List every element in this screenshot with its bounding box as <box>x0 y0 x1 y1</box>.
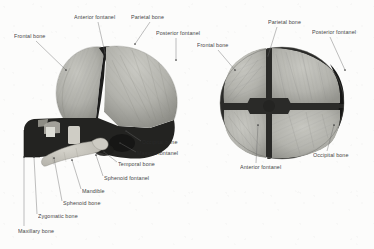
leader-dot-mastoid-fontanel <box>119 142 121 144</box>
leader-dot-anterior-fontanel-sup <box>257 124 259 126</box>
label-anterior-fontanel-sup: Anterior fontanel <box>240 164 281 170</box>
label-occipital-bone-sup: Occipital bone <box>313 152 349 158</box>
label-posterior-fontanel-sup: Posterior fontanel <box>312 29 356 35</box>
label-parietal-bone: Parietal bone <box>131 14 164 20</box>
label-parietal-bone-sup: Parietal bone <box>268 19 301 25</box>
leader-line-mandible <box>72 160 81 189</box>
leader-dot-anterior-fontanel <box>104 52 106 54</box>
leader-line-sphenoid-bone <box>54 158 62 201</box>
label-maxillary-bone: Maxillary bone <box>18 228 54 234</box>
superior-view-skull <box>218 42 346 164</box>
label-occipital-bone: Occipital bone <box>142 139 178 145</box>
leader-dot-frontal-bone-sup <box>234 69 236 71</box>
leader-dot-parietal-bone <box>134 43 136 45</box>
label-frontal-bone-sup: Frontal bone <box>197 42 228 48</box>
label-anterior-fontanel: Anterior fontanel <box>74 14 115 20</box>
label-frontal-bone: Frontal bone <box>14 33 45 39</box>
orbit-highlight <box>68 126 80 144</box>
anatomy-figure: Frontal boneAnterior fontanelParietal bo… <box>0 0 374 249</box>
leader-dot-frontal-bone <box>65 69 67 71</box>
label-mastoid-fontanel: Mastoid fontanel <box>137 150 178 156</box>
leader-dot-occipital-bone <box>125 130 127 132</box>
label-temporal-bone: Temporal bone <box>118 161 155 167</box>
lateral-view-skull <box>24 38 188 166</box>
leader-line-posterior-fontanel-sup <box>330 37 345 70</box>
leader-dot-sphenoid-bone <box>53 157 55 159</box>
leader-line-sphenoid-fontanel <box>96 155 103 176</box>
nasal-plate <box>38 119 48 127</box>
label-sphenoid-bone: Sphenoid bone <box>63 200 101 206</box>
leader-dot-mandible <box>71 159 73 161</box>
skull-illustration <box>0 0 374 249</box>
label-zygomatic-bone: Zygomatic bone <box>38 213 78 219</box>
leader-dot-sphenoid-fontanel <box>95 154 97 156</box>
label-mandible: Mandible <box>82 188 105 194</box>
leader-dot-zygomatic-bone <box>33 156 35 158</box>
leader-line-zygomatic-bone <box>34 157 37 214</box>
leader-line-frontal-bone-sup <box>218 50 235 70</box>
leader-dot-temporal-bone <box>103 151 105 153</box>
leader-line-parietal-bone <box>135 22 150 44</box>
fontanel-center <box>263 100 275 112</box>
leader-dot-occipital-bone-sup <box>333 124 335 126</box>
leader-line-frontal-bone <box>36 41 66 70</box>
label-sphenoid-fontanel: Sphenoid fontanel <box>104 175 149 181</box>
leader-dot-posterior-fontanel-sup <box>344 69 346 71</box>
maxillary-plate <box>46 127 55 137</box>
leader-dot-maxillary-bone <box>23 156 25 158</box>
leader-dot-parietal-bone-sup <box>267 55 269 57</box>
leader-dot-posterior-fontanel <box>175 59 177 61</box>
label-posterior-fontanel: Posterior fontanel <box>156 30 200 36</box>
